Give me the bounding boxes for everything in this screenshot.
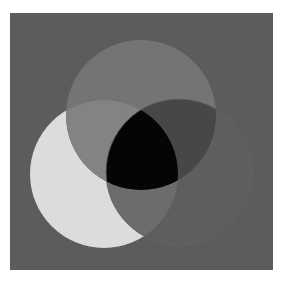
venn-diagram [0,0,287,283]
venn-diagram-canvas [0,0,287,283]
